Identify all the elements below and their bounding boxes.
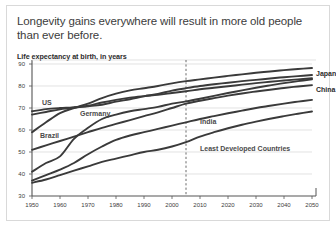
y-axis-ticks: 30405060708090 — [18, 61, 32, 199]
series-label-china: China — [316, 86, 336, 93]
y-tick-label: 60 — [18, 127, 25, 133]
x-tick-label: 2020 — [221, 202, 235, 208]
axis-lines — [32, 60, 316, 196]
x-axis-ticks: 1950196019701980199020002010202020302040… — [25, 196, 319, 208]
x-tick-label: 1980 — [109, 202, 123, 208]
y-tick-label: 70 — [18, 105, 25, 111]
x-tick-label: 1960 — [53, 202, 67, 208]
chart-figure: Longevity gains everywhere will result i… — [0, 0, 336, 227]
x-tick-label: 2040 — [277, 202, 291, 208]
y-tick-label: 30 — [18, 193, 25, 199]
series-label-ldc: Least Developed Countries — [200, 145, 290, 153]
series-label-brazil: Brazil — [40, 132, 59, 139]
x-tick-label: 2000 — [165, 202, 179, 208]
series-label-us: US — [42, 99, 52, 106]
y-tick-label: 80 — [18, 83, 25, 89]
plot-area: 30405060708090 1950196019701980199020002… — [0, 0, 336, 227]
y-tick-label: 40 — [18, 171, 25, 177]
series-label-india: India — [200, 118, 216, 125]
x-tick-label: 2050 — [305, 202, 319, 208]
y-tick-label: 90 — [18, 61, 25, 67]
y-tick-label: 50 — [18, 149, 25, 155]
series-label-germany: Germany — [80, 110, 110, 118]
line-chart-svg: 30405060708090 1950196019701980199020002… — [0, 0, 336, 227]
x-tick-label: 1950 — [25, 202, 39, 208]
x-tick-label: 1990 — [137, 202, 151, 208]
x-tick-label: 2010 — [193, 202, 207, 208]
x-tick-label: 2030 — [249, 202, 263, 208]
series-label-japan: Japan — [316, 70, 336, 78]
x-tick-label: 1970 — [81, 202, 95, 208]
series-lines — [32, 68, 312, 183]
series-line-india — [32, 100, 312, 181]
